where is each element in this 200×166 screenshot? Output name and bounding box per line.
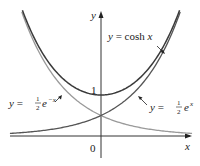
cosh-eq: = <box>113 30 125 42</box>
pos-exp: x <box>189 100 194 108</box>
cosh-var: x <box>147 30 153 42</box>
tick-label-one: 1 <box>91 84 97 96</box>
svg-text:y =: y = <box>8 97 23 109</box>
neg-base: e <box>42 97 47 109</box>
svg-text:y =: y = <box>149 101 164 113</box>
pos-pointer-line <box>140 98 147 105</box>
annotation-cosh: y = cosh x <box>107 30 165 54</box>
neg-frac-den: 2 <box>36 104 40 112</box>
pos-frac-den: 2 <box>177 108 181 116</box>
pos-frac-num: 1 <box>177 99 181 107</box>
annotation-half-exp-pos: y = 1 2 e x <box>138 96 194 116</box>
curve-half-exp-x <box>10 12 180 134</box>
y-axis-arrow-icon <box>99 11 104 18</box>
neg-frac-num: 1 <box>36 95 40 103</box>
origin-label: 0 <box>90 142 96 154</box>
cosh-fn: cosh <box>125 30 148 42</box>
x-axis-arrow-icon <box>185 134 192 139</box>
y-axis-label: y <box>90 9 96 21</box>
pos-base: e <box>184 101 189 113</box>
neg-exp: −x <box>48 96 57 104</box>
curve-half-exp-neg-x <box>22 12 192 134</box>
chart: y x 0 1 y = cosh x y = 1 2 e −x y = 1 2 … <box>0 0 200 166</box>
svg-text:y = cosh x: y = cosh x <box>107 30 153 42</box>
axes <box>10 11 192 158</box>
x-axis-label: x <box>184 140 190 152</box>
annotation-half-exp-neg: y = 1 2 e −x <box>8 95 62 112</box>
